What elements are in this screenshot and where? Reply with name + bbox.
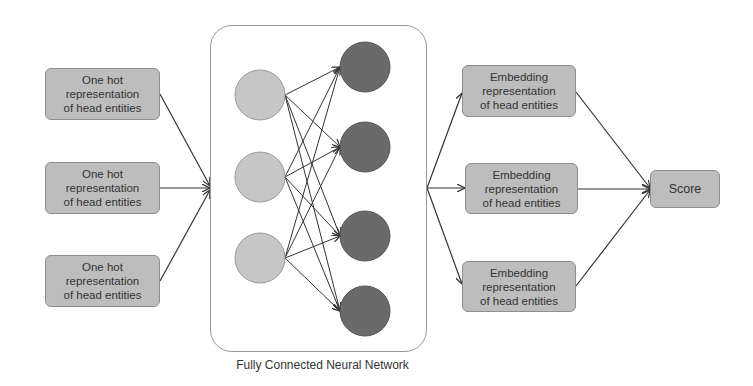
embedding-arrows bbox=[427, 93, 465, 284]
score-box: Score bbox=[650, 170, 720, 208]
one-hot-input-box: One hot representation of head entities bbox=[45, 162, 160, 214]
embedding-box: Embedding representation of head entitie… bbox=[462, 65, 576, 117]
one-hot-input-box: One hot representation of head entities bbox=[45, 68, 160, 120]
embedding-box: Embedding representation of head entitie… bbox=[462, 261, 576, 312]
one-hot-input-box: One hot representation of head entities bbox=[45, 255, 160, 307]
network-caption: Fully Connected Neural Network bbox=[200, 358, 445, 372]
score-arrows bbox=[576, 92, 650, 286]
neural-network-frame bbox=[210, 25, 427, 352]
embedding-box: Embedding representation of head entitie… bbox=[465, 163, 578, 214]
input-arrows bbox=[160, 94, 210, 281]
